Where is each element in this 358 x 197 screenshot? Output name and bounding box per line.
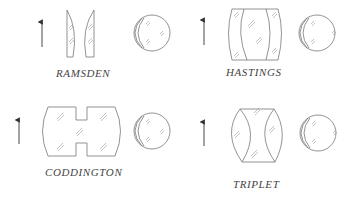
panel-coddington: CODDINGTON [19, 107, 170, 178]
eye-icon [134, 113, 170, 149]
label-hastings: HASTINGS [225, 66, 282, 78]
eye-icon [299, 15, 336, 51]
eye-icon [300, 115, 337, 151]
magnifier-lens-diagram: RAMSDEN HASTINGS CODDING [0, 0, 358, 197]
panel-triplet: TRIPLET [204, 108, 337, 190]
label-ramsden: RAMSDEN [55, 67, 110, 79]
eye-icon [134, 15, 170, 51]
lens-triplet-icon [229, 9, 282, 60]
lens-triplet-icon [231, 108, 282, 162]
panel-ramsden: RAMSDEN [42, 10, 170, 79]
label-triplet: TRIPLET [233, 178, 280, 190]
label-coddington: CODDINGTON [45, 166, 122, 178]
grooved-lens-icon [43, 107, 121, 156]
panel-hastings: HASTINGS [204, 9, 336, 78]
lens-pair-icon [67, 10, 94, 57]
